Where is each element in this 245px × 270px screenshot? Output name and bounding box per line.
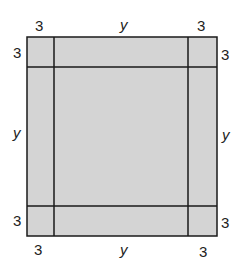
label-left-bottom-height: 3 [13,213,21,228]
label-left-middle: y [13,125,21,140]
label-right-middle: y [222,127,230,142]
label-right-top-height: 3 [221,47,229,62]
label-top-right-width: 3 [197,18,205,33]
label-bottom-left-width: 3 [34,242,42,257]
label-bottom-middle: y [120,242,128,257]
square-diagram: 3 y 3 3 y 3 3 y 3 3 y 3 [0,0,245,270]
square-figure [0,0,245,270]
label-top-middle: y [120,17,128,32]
label-bottom-right-width: 3 [199,244,207,259]
label-top-left-width: 3 [35,18,43,33]
label-right-bottom-height: 3 [221,215,229,230]
label-left-top-height: 3 [13,45,21,60]
